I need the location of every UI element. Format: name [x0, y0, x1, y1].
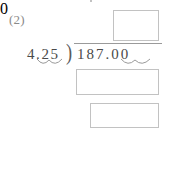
quotient-answer-box[interactable]: [113, 10, 159, 41]
division-bracket-icon: ): [66, 41, 72, 64]
remainder-value: 0: [0, 0, 8, 18]
division-vinculum: [74, 43, 162, 44]
decimal-shift-arc-icon: [36, 58, 66, 68]
problem-number-label: (2): [9, 12, 25, 28]
subtraction-step-box-3[interactable]: [90, 0, 92, 2]
subtraction-step-box-2[interactable]: [90, 103, 159, 128]
long-division-worksheet: (2) 4.25 ) 187.00 0: [0, 0, 171, 181]
decimal-shift-arc-icon: [120, 58, 154, 68]
subtraction-step-box-1[interactable]: [76, 69, 159, 95]
